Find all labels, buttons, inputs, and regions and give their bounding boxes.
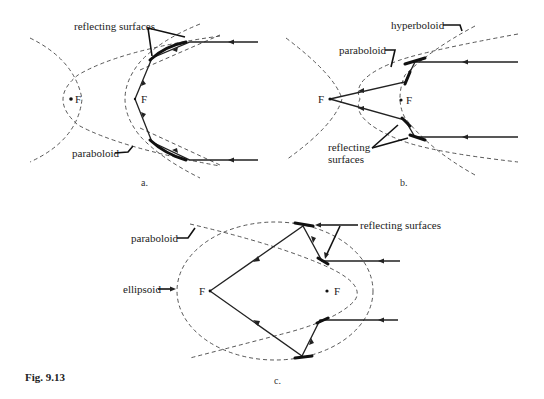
focus-dot-left-b bbox=[328, 97, 331, 100]
focus-dot-left-a bbox=[69, 97, 73, 101]
label-hyperboloid-b: hyperboloid bbox=[391, 19, 445, 31]
focus-dot-right-a bbox=[134, 98, 136, 100]
focus-dot-left-c bbox=[209, 290, 212, 293]
panel-a: F F reflecting surfaces paraboloid a. bbox=[30, 20, 258, 188]
focus-label-left-c: F bbox=[199, 285, 205, 297]
label-reflecting-surfaces-c: reflecting surfaces bbox=[360, 219, 441, 231]
focus-label-left-a: F bbox=[75, 93, 81, 105]
focus-label-right-b: F bbox=[406, 94, 412, 106]
label-reflecting-surfaces-a: reflecting surfaces bbox=[74, 20, 155, 32]
focus-dot-right-b bbox=[399, 98, 402, 101]
label-reflecting-b-1: reflecting bbox=[328, 141, 371, 153]
label-ellipsoid-c: ellipsoid bbox=[123, 283, 161, 295]
ray-bottom-a bbox=[135, 99, 258, 160]
panel-c: F F paraboloid ellipsoid reflecting surf… bbox=[123, 219, 441, 386]
pointer-paraboloid-c bbox=[177, 228, 195, 238]
focus-dot-right-c bbox=[325, 289, 328, 292]
focus-label-right-a: F bbox=[141, 93, 147, 105]
ray-top-c bbox=[210, 226, 400, 291]
label-paraboloid-b: paraboloid bbox=[339, 44, 387, 56]
ray-bottom-c bbox=[210, 291, 398, 356]
pointer-reflecting-c-2 bbox=[326, 226, 340, 256]
label-reflecting-b-2: surfaces bbox=[328, 153, 364, 165]
focus-label-left-b: F bbox=[318, 93, 324, 105]
label-paraboloid-a: paraboloid bbox=[72, 147, 120, 159]
panel-label-b: b. bbox=[400, 177, 408, 188]
focus-label-right-c: F bbox=[334, 285, 340, 297]
mirror-bottom-c-2 bbox=[295, 356, 312, 358]
pointer-paraboloid-b bbox=[385, 50, 395, 67]
figure-canvas: F F reflecting surfaces paraboloid a. F bbox=[0, 0, 544, 399]
ray-top-a bbox=[135, 42, 258, 99]
arrowhead-icon bbox=[228, 40, 234, 45]
arrowhead-icon bbox=[378, 318, 384, 323]
ellipsoid-c bbox=[177, 222, 373, 360]
arrowhead-icon bbox=[378, 259, 384, 264]
arrowhead-icon bbox=[315, 223, 321, 228]
pointer-hyperboloid-b bbox=[443, 25, 462, 31]
figure-caption: Fig. 9.13 bbox=[25, 371, 66, 383]
label-paraboloid-c: paraboloid bbox=[131, 232, 179, 244]
arrowhead-icon bbox=[462, 60, 468, 65]
arrowhead-icon bbox=[228, 158, 234, 163]
arrowhead-icon bbox=[170, 287, 176, 292]
panel-label-a: a. bbox=[141, 177, 148, 188]
mirror-top-c-1 bbox=[295, 223, 313, 226]
panel-label-c: c. bbox=[274, 375, 281, 386]
panel-b: F F hyperboloid paraboloid reflecting su… bbox=[286, 19, 518, 188]
arrowhead-icon bbox=[462, 135, 468, 140]
